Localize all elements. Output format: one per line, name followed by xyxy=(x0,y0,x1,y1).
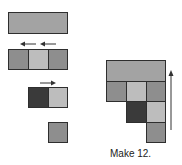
square-light xyxy=(126,81,147,102)
single-square-piece xyxy=(48,122,68,143)
long-bar-piece xyxy=(8,12,68,34)
left-arrow-icon xyxy=(40,41,56,47)
long-bar-piece xyxy=(106,60,166,82)
square-dark xyxy=(126,101,147,123)
square-medium xyxy=(8,49,29,70)
caption: Make 12. xyxy=(110,148,151,159)
square-dark xyxy=(28,87,49,108)
up-arrow-icon xyxy=(168,70,174,130)
square-medium xyxy=(106,81,127,102)
square-medium xyxy=(146,122,166,143)
square-light xyxy=(28,49,49,70)
square-medium xyxy=(48,49,68,70)
right-arrow-icon xyxy=(40,80,56,86)
square-light xyxy=(146,101,166,123)
square-light xyxy=(48,87,68,108)
left-arrow-icon xyxy=(20,41,36,47)
square-medium xyxy=(146,81,166,102)
